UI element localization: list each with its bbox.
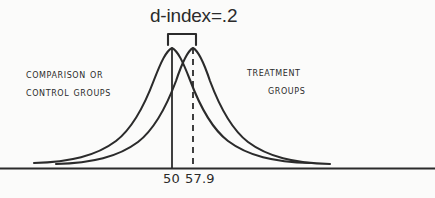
x-axis-tick-label-57-9: 57.9 bbox=[185, 172, 215, 186]
d-index-title: d-index=.2 bbox=[150, 6, 237, 26]
figure-canvas bbox=[0, 0, 435, 198]
d-index-bracket bbox=[168, 34, 196, 45]
x-axis-tick-label-50: 50 bbox=[163, 172, 180, 186]
treatment-group-label-line1: Treatment bbox=[247, 66, 300, 78]
comparison-group-label-line1: Comparison or bbox=[26, 68, 103, 80]
treatment-group-label-line2: Groups bbox=[268, 84, 305, 96]
distribution-figure: d-index=.2 Comparison or Control groups … bbox=[0, 0, 435, 198]
comparison-group-label-line2: Control groups bbox=[26, 86, 111, 98]
